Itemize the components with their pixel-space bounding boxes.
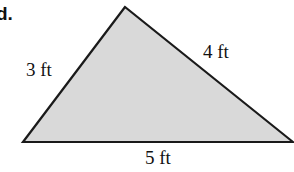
side-label-right: 4 ft <box>203 42 229 61</box>
side-label-bottom: 5 ft <box>145 148 171 167</box>
side-label-left: 3 ft <box>26 60 52 79</box>
problem-label: d. <box>0 4 13 23</box>
triangle-shape <box>23 7 293 142</box>
